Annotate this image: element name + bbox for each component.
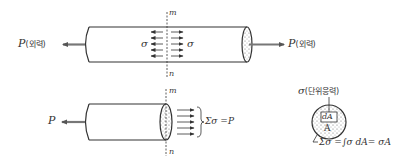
force-note: (외력) <box>25 40 45 49</box>
top-stress-right-label: σ <box>187 39 194 49</box>
bottom-section-m-label: m <box>169 87 177 95</box>
bottom-bar-outline <box>86 104 167 140</box>
bottom-bar <box>62 89 204 156</box>
bottom-force-label: P <box>48 115 55 126</box>
force-note: (외력) <box>295 40 315 49</box>
top-stress-arrows-right <box>171 32 183 56</box>
top-left-force-label: P(외력) <box>18 38 46 49</box>
sum-equation: Σσ =P <box>205 117 234 126</box>
integral-pointer <box>313 135 318 142</box>
top-section-m-label: m <box>169 9 177 17</box>
top-stress-left-label: σ <box>141 39 148 49</box>
integral-equation: Σσ =∫σ dA= σA <box>319 138 391 147</box>
top-right-force-label: P(외력) <box>288 38 316 49</box>
stress-symbol: σ <box>298 85 305 96</box>
unit-stress-label: σ(단위응력) <box>298 86 339 96</box>
bottom-stress-arrows <box>177 110 194 134</box>
stress-note: (단위응력) <box>305 87 339 96</box>
top-bar-outline <box>86 27 248 62</box>
top-section-n-label: n <box>169 70 174 78</box>
top-stress-arrows-left <box>151 32 163 56</box>
bottom-section-n-label: n <box>169 148 174 156</box>
sum-brace <box>197 107 204 137</box>
area-element-label: dA <box>322 113 333 121</box>
area-label: A <box>324 124 331 133</box>
